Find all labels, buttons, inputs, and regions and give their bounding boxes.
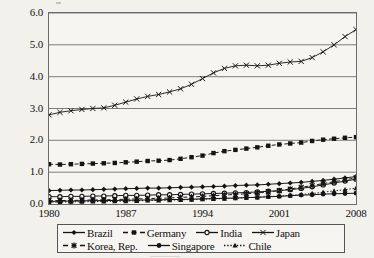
marker-triangle [233,243,238,248]
marker-square [343,136,347,140]
marker-diamond [189,185,194,190]
marker-square [288,141,292,145]
legend-symbol-triangle [223,240,247,251]
marker-square [310,139,314,143]
marker-diamond [68,187,73,192]
legend-item-brazil[interactable]: Brazil [62,227,113,239]
marker-square [156,159,160,163]
legend-label: Chile [248,240,271,252]
legend-item-germany[interactable]: Germany [122,227,187,239]
marker-triangle [354,185,357,190]
marker-square [200,153,204,157]
marker-x [342,34,347,39]
marker-square [69,162,73,166]
x-tick-label: 1980 [38,207,59,219]
x-tick-label: 1994 [192,207,213,219]
legend-symbol-diamond [62,227,86,238]
marker-circle-filled [343,191,348,196]
y-axis-tick-labels: 0.01.02.03.04.05.06.0 [0,0,46,215]
marker-x [178,86,183,91]
marker-square [244,146,248,150]
marker-square [49,162,51,166]
x-axis-tick-labels: 19801987199420012008 [48,207,357,223]
marker-diamond [134,186,139,191]
x-tick-label: 1987 [115,207,136,219]
marker-square [58,162,62,166]
marker-circle-open [205,230,209,234]
marker-square [80,162,84,166]
marker-diamond [90,187,95,192]
marker-square [189,155,193,159]
series-line [49,30,356,115]
marker-square [321,137,325,141]
legend-label: Germany [147,227,187,239]
marker-diamond [71,230,76,235]
marker-diamond [222,184,227,189]
marker-diamond [156,185,161,190]
legend-symbol-x [251,227,275,238]
y-tick-label: 3.0 [30,103,43,114]
marker-square [131,230,135,234]
marker-square [354,135,356,139]
legend-label: Japan [276,227,300,239]
legend-label: Brazil [87,227,113,239]
marker-square [299,140,303,144]
legend-item-india[interactable]: India [195,227,242,239]
marker-diamond [277,181,282,186]
y-tick-label: 2.0 [30,134,43,145]
marker-x [353,27,356,32]
legend-label: India [220,227,242,239]
scan-artifact [56,2,61,4]
y-tick-label: 4.0 [30,71,43,82]
marker-square [233,148,237,152]
y-tick-label: 6.0 [30,7,43,18]
marker-diamond [266,182,271,187]
legend-symbol-circle-filled [147,240,171,251]
legend-item-japan[interactable]: Japan [251,227,300,239]
legend-item-korea-rep[interactable]: Korea, Rep. [62,240,138,252]
legend-row-1: BrazilGermanyIndiaJapan [62,226,340,239]
marker-diamond [233,183,238,188]
marker-square [135,159,139,163]
marker-x [321,49,326,54]
marker-diamond [244,183,249,188]
marker-circle-filled [156,243,161,248]
series-japan [49,27,356,118]
y-tick-label: 1.0 [30,166,43,177]
y-tick-label: 5.0 [30,39,43,50]
legend-symbol-circle-open [195,227,219,238]
marker-diamond [288,180,293,185]
legend-item-chile[interactable]: Chile [223,240,271,252]
marker-x [310,55,315,60]
chart-legend: BrazilGermanyIndiaJapan Korea, Rep.Singa… [57,224,345,253]
marker-square [91,161,95,165]
marker-square [266,144,270,148]
plot-area [48,12,357,205]
marker-square [102,161,106,165]
marker-triangle [332,188,337,193]
marker-square [255,145,259,149]
legend-label: Korea, Rep. [87,240,138,252]
marker-diamond [299,180,304,185]
marker-square [332,137,336,141]
legend-symbol-square [122,227,146,238]
marker-square [124,160,128,164]
marker-square [113,161,117,165]
marker-diamond [178,185,183,190]
legend-symbol-asterisk [62,240,86,251]
marker-diamond [255,182,260,187]
legend-row-2: Korea, Rep.SingaporeChile [62,239,340,252]
marker-x [189,82,194,87]
marker-diamond [49,188,52,193]
series-germany [49,135,356,167]
marker-diamond [79,187,84,192]
marker-circle-filled [354,191,356,196]
chart-page: 0.01.02.03.04.05.06.0 198019871994200120… [0,0,374,258]
scan-artifact [150,256,180,257]
marker-diamond [112,186,117,191]
plot-svg [49,13,356,204]
marker-square [167,158,171,162]
marker-diamond [123,186,128,191]
legend-item-singapore[interactable]: Singapore [147,240,215,252]
legend-label: Singapore [172,240,215,252]
